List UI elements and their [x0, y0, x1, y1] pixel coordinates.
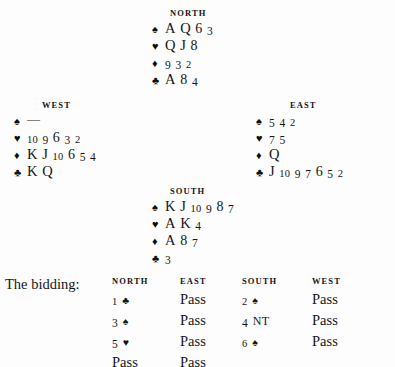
bidding-body: 1♣Pass2♠Pass3♠Pass4NTPass5♥Pass6♠PassPas… [112, 291, 372, 367]
hand-west-spades-ranks: — [27, 113, 40, 128]
hand-east-hearts: ♥ 75 [256, 130, 343, 147]
hand-west-hearts: ♥ 109632 [14, 130, 96, 147]
bidding-header-west: WEST [312, 272, 372, 291]
hand-east-clubs: ♣ J1097652 [256, 164, 343, 181]
diamond-icon: ♦ [256, 150, 269, 161]
bid-pass-west-2: Pass [312, 312, 372, 333]
bid-pass-east-1: Pass [180, 291, 242, 312]
diamond-icon: ♦ [14, 150, 27, 161]
hand-north-hearts-ranks: QJ8 [165, 38, 198, 53]
bid-pass-east-2: Pass [180, 312, 242, 333]
diamond-icon: ♦ [152, 236, 165, 247]
bid-south-1: 2♠ [242, 291, 312, 312]
bidding-header-east: EAST [180, 272, 242, 291]
spade-icon: ♠ [152, 202, 165, 213]
bid-south-2: 4NT [242, 312, 312, 333]
bidding-row: 1♣Pass2♠Pass [112, 291, 372, 312]
hand-east-diamonds-ranks: Q [269, 147, 280, 162]
hand-east-spades: ♠ 542 [256, 113, 343, 130]
heart-icon: ♥ [256, 133, 269, 144]
hand-west: WEST ♠ — ♥ 109632 ♦ KJ10654 ♣ KQ [14, 100, 96, 181]
bidding-header-row: NORTH EAST SOUTH WEST [112, 272, 372, 291]
hand-east-hearts-ranks: 75 [269, 130, 285, 145]
hand-west-diamonds-ranks: KJ10654 [27, 147, 96, 162]
bidding-caption: The bidding: [5, 276, 80, 293]
diamond-icon: ♦ [152, 58, 165, 69]
hand-west-clubs-ranks: KQ [27, 164, 53, 179]
hand-east-diamonds: ♦ Q [256, 147, 343, 164]
hand-north-diamonds: ♦ 932 [152, 55, 213, 72]
hand-north-clubs: ♣ A84 [152, 72, 213, 89]
hand-south-spades-ranks: KJ10987 [165, 199, 234, 214]
club-icon: ♣ [152, 253, 165, 264]
bid-south-3: 6♠ [242, 333, 312, 354]
hand-south-diamonds-ranks: A87 [165, 233, 198, 248]
bridge-deal-diagram: NORTH ♠ AQ63 ♥ QJ8 ♦ 932 ♣ A84 WEST ♠ — … [0, 0, 395, 270]
hand-north-spades: ♠ AQ63 [152, 21, 213, 38]
hand-east-clubs-ranks: J1097652 [269, 164, 343, 179]
hand-east: EAST ♠ 542 ♥ 75 ♦ Q ♣ J1097652 [256, 100, 343, 181]
hand-west-hearts-ranks: 109632 [27, 130, 80, 145]
bid-empty-south-4 [242, 354, 312, 367]
heart-icon: ♥ [14, 133, 27, 144]
hand-south-clubs: ♣ 3 [152, 250, 234, 267]
hand-west-label: WEST [42, 100, 96, 110]
hand-north-diamonds-ranks: 932 [165, 55, 191, 70]
hand-north: NORTH ♠ AQ63 ♥ QJ8 ♦ 932 ♣ A84 [152, 8, 213, 89]
bid-north-3: 5♥ [112, 333, 180, 354]
hand-west-clubs: ♣ KQ [14, 164, 96, 181]
spade-icon: ♠ [256, 116, 269, 127]
hand-north-hearts: ♥ QJ8 [152, 38, 213, 55]
bidding-header-south: SOUTH [242, 272, 312, 291]
hand-north-spades-ranks: AQ63 [165, 21, 213, 36]
club-icon: ♣ [152, 75, 165, 86]
bid-pass-east-3: Pass [180, 333, 242, 354]
bidding-table: NORTH EAST SOUTH WEST 1♣Pass2♠Pass3♠Pass… [112, 272, 372, 367]
spade-icon: ♠ [14, 116, 27, 127]
bid-empty-west-4 [312, 354, 372, 367]
hand-north-label: NORTH [170, 8, 213, 18]
bid-north-2: 3♠ [112, 312, 180, 333]
club-icon: ♣ [256, 167, 269, 178]
hand-east-label: EAST [290, 100, 343, 110]
hand-south-clubs-ranks: 3 [165, 250, 171, 265]
hand-south: SOUTH ♠ KJ10987 ♥ AK4 ♦ A87 ♣ 3 [152, 186, 234, 267]
heart-icon: ♥ [152, 41, 165, 52]
bid-pass-west-3: Pass [312, 333, 372, 354]
hand-south-diamonds: ♦ A87 [152, 233, 234, 250]
bidding-row: 3♠Pass4NTPass [112, 312, 372, 333]
hand-south-hearts: ♥ AK4 [152, 216, 234, 233]
club-icon: ♣ [14, 167, 27, 178]
bid-pass-west-1: Pass [312, 291, 372, 312]
bid-pass-north-4: Pass [112, 354, 180, 367]
heart-icon: ♥ [152, 219, 165, 230]
hand-south-spades: ♠ KJ10987 [152, 199, 234, 216]
hand-east-spades-ranks: 542 [269, 113, 295, 128]
spade-icon: ♠ [152, 24, 165, 35]
hand-west-diamonds: ♦ KJ10654 [14, 147, 96, 164]
hand-north-clubs-ranks: A84 [165, 72, 198, 87]
hand-south-label: SOUTH [170, 186, 234, 196]
bid-north-1: 1♣ [112, 291, 180, 312]
bid-pass-east-4: Pass [180, 354, 242, 367]
hand-west-spades: ♠ — [14, 113, 96, 130]
bidding-header-north: NORTH [112, 272, 180, 291]
hand-south-hearts-ranks: AK4 [165, 216, 201, 231]
bidding-row: 5♥Pass6♠Pass [112, 333, 372, 354]
bidding-row: PassPass [112, 354, 372, 367]
